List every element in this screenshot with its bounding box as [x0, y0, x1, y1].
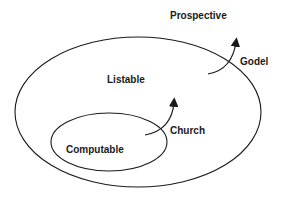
diagram-canvas [0, 0, 282, 199]
listable-set-ellipse [15, 37, 261, 187]
godel-label: Godel [240, 57, 268, 67]
godel-arrow [208, 42, 236, 74]
listable-label: Listable [107, 75, 145, 85]
church-label: Church [170, 126, 205, 136]
prospective-label: Prospective [170, 11, 227, 21]
computable-label: Computable [66, 145, 124, 155]
computable-set-ellipse [51, 113, 167, 171]
